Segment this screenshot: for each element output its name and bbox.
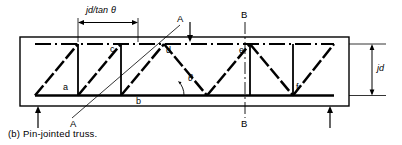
depth-dimension-label: jd [377, 64, 384, 73]
figure-caption: (b) Pin-jointed truss. [8, 128, 97, 139]
span-dimension-expression: jd/tan [86, 5, 108, 15]
support-reaction-right [327, 106, 333, 128]
node-label-b: b [136, 97, 141, 106]
node-label-f: f [296, 83, 299, 92]
span-dimension-label: jd/tanθ [86, 6, 116, 15]
span-dimension-theta: θ [111, 5, 116, 15]
section-label-b-bottom: B [241, 119, 247, 129]
section-label-b-top: B [241, 10, 247, 20]
node-label-e: e [239, 46, 244, 55]
section-line-a-a [72, 25, 180, 118]
theta-angle-arc [179, 82, 185, 96]
theta-angle-label: θ [188, 74, 193, 83]
span-dimension [78, 18, 138, 42]
truss-diagram-svg [0, 0, 402, 145]
node-label-d: d [166, 46, 171, 55]
load-arrow-down [187, 22, 193, 42]
node-label-c: c [110, 45, 115, 54]
pin-jointed-truss-figure: jd/tanθ jd θ a b c d e f A A B B (b) Pin… [0, 0, 402, 145]
node-label-a: a [63, 83, 68, 92]
web-diagonals [35, 44, 334, 96]
section-label-a-top: A [177, 14, 183, 24]
support-reaction-left [35, 106, 41, 128]
